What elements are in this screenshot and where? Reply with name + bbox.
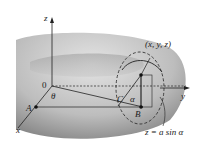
origin-label: 0 bbox=[42, 81, 47, 90]
x-axis-label: x bbox=[16, 126, 20, 135]
point-b-label: B bbox=[135, 110, 141, 119]
alpha-label: α bbox=[130, 95, 135, 104]
y-axis-arrow bbox=[184, 86, 190, 90]
point-xyz-label: (x, y, z) bbox=[145, 40, 171, 49]
z-axis-label: z bbox=[44, 14, 48, 23]
point-c-label: C bbox=[117, 95, 123, 104]
point-a-dot bbox=[34, 105, 38, 109]
z-axis-arrow bbox=[50, 17, 54, 23]
equation-label: z = a sin α bbox=[145, 128, 183, 137]
point-xyz-dot bbox=[139, 73, 143, 77]
y-axis-label: y bbox=[181, 92, 185, 101]
point-a-label: A bbox=[26, 104, 32, 113]
theta-label: θ bbox=[51, 92, 55, 101]
